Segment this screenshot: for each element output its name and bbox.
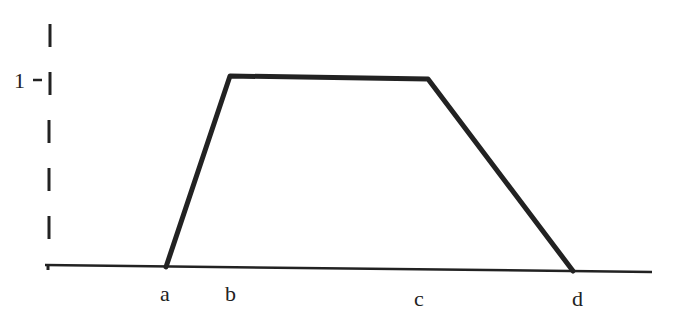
x-axis bbox=[45, 265, 652, 272]
y-tick-label: 1 bbox=[14, 68, 25, 93]
x-label-d: d bbox=[572, 286, 583, 311]
x-label-b: b bbox=[225, 281, 236, 306]
trapezoid-diagram: 1 a b c d bbox=[0, 0, 673, 325]
y-axis bbox=[48, 24, 50, 270]
x-label-a: a bbox=[160, 281, 170, 306]
x-label-c: c bbox=[414, 286, 424, 311]
membership-function-line bbox=[166, 76, 573, 271]
